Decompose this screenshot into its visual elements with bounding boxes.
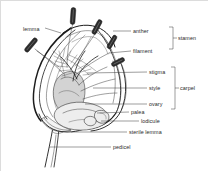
label-ovary: ovary — [149, 101, 163, 107]
label-sterile-lemma: sterile lemma — [129, 129, 162, 135]
label-palea: palea — [131, 109, 144, 115]
grass-floret-figure: lemma anther filament stamen stigma styl… — [0, 0, 208, 171]
label-anther: anther — [133, 28, 149, 34]
label-lodicule: lodicule — [141, 118, 160, 124]
label-carpel: carpel — [180, 85, 195, 91]
label-stamen: stamen — [178, 35, 196, 41]
label-stigma: stigma — [149, 69, 165, 75]
label-filament: filament — [133, 48, 153, 54]
label-lemma: lemma — [23, 26, 39, 32]
label-style: style — [149, 85, 160, 91]
diagram-canvas: lemma anther filament stamen stigma styl… — [1, 1, 208, 171]
label-pedicel: pedicel — [113, 144, 130, 150]
